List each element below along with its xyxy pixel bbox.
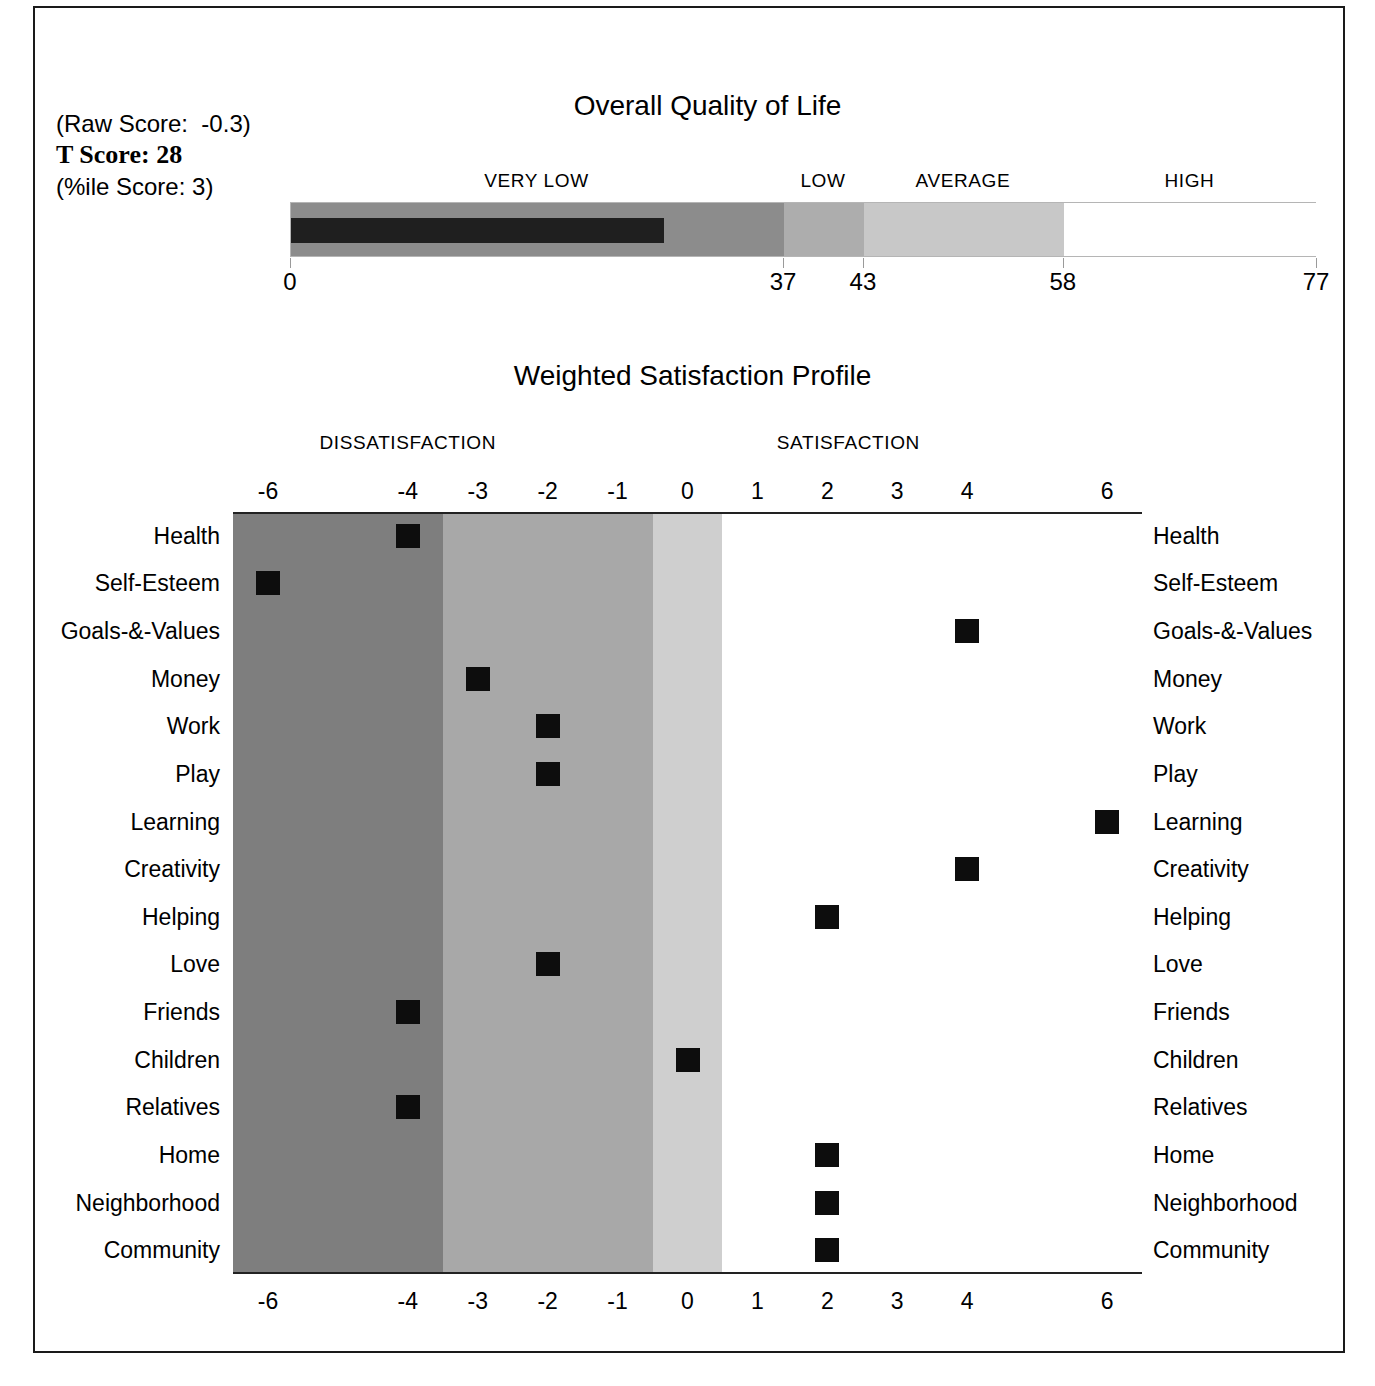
wsp-row-label-left: Love	[0, 951, 220, 978]
wsp-axis-tick-label: -4	[398, 478, 418, 505]
wsp-row-label-right: Creativity	[1153, 856, 1249, 883]
wsp-axis-tick-label: 2	[821, 478, 834, 505]
wsp-axis-tick-label: -4	[398, 1288, 418, 1315]
wsp-data-marker	[1095, 810, 1119, 834]
wsp-row-label-right: Relatives	[1153, 1094, 1248, 1121]
wsp-row-label-right: Play	[1153, 760, 1198, 787]
wsp-axis-tick-label: 6	[1101, 1288, 1114, 1315]
wsp-row-label-right: Health	[1153, 522, 1219, 549]
wsp-data-marker	[955, 619, 979, 643]
wsp-axis-tick-label: -6	[258, 1288, 278, 1315]
wsp-axis-tick-label: 0	[681, 478, 694, 505]
wsp-band-satisfied	[722, 514, 1142, 1272]
wsp-data-marker	[256, 571, 280, 595]
weighted-satisfaction-profile-chart: DISSATISFACTIONSATISFACTION -6-4-3-2-101…	[0, 0, 1375, 1386]
wsp-data-marker	[815, 1143, 839, 1167]
wsp-row-label-right: Friends	[1153, 999, 1230, 1026]
wsp-row-label-right: Learning	[1153, 808, 1243, 835]
wsp-row-label-right: Home	[1153, 1141, 1214, 1168]
wsp-header-label: DISSATISFACTION	[320, 432, 497, 454]
wsp-data-marker	[955, 857, 979, 881]
wsp-row-label-left: Creativity	[0, 856, 220, 883]
wsp-data-marker	[676, 1048, 700, 1072]
wsp-row-label-right: Goals-&-Values	[1153, 618, 1312, 645]
wsp-axis-tick-label: 3	[891, 1288, 904, 1315]
wsp-axis-tick-label: 6	[1101, 478, 1114, 505]
wsp-axis-tick-label: -2	[537, 1288, 557, 1315]
wsp-axis-tick-label: -2	[537, 478, 557, 505]
wsp-row-label-left: Health	[0, 522, 220, 549]
wsp-data-marker	[536, 762, 560, 786]
wsp-row-label-right: Self-Esteem	[1153, 570, 1278, 597]
wsp-axis-tick-label: -1	[607, 1288, 627, 1315]
wsp-row-label-left: Friends	[0, 999, 220, 1026]
wsp-axis-tick-label: 1	[751, 478, 764, 505]
wsp-row-label-left: Children	[0, 1046, 220, 1073]
wsp-data-marker	[815, 905, 839, 929]
wsp-axis-tick-label: 4	[961, 1288, 974, 1315]
wsp-row-label-left: Money	[0, 665, 220, 692]
wsp-header-label: SATISFACTION	[777, 432, 920, 454]
wsp-band-mild	[653, 514, 723, 1272]
wsp-axis-tick-label: 4	[961, 478, 974, 505]
wsp-row-label-left: Play	[0, 760, 220, 787]
wsp-axis-tick-label: 0	[681, 1288, 694, 1315]
wsp-row-label-left: Community	[0, 1237, 220, 1264]
wsp-data-marker	[815, 1238, 839, 1262]
wsp-axis-tick-label: -3	[467, 478, 487, 505]
wsp-row-label-left: Neighborhood	[0, 1189, 220, 1216]
wsp-row-label-left: Relatives	[0, 1094, 220, 1121]
wsp-data-marker	[396, 1095, 420, 1119]
wsp-axis-tick-label: 2	[821, 1288, 834, 1315]
wsp-data-marker	[466, 667, 490, 691]
wsp-data-marker	[536, 714, 560, 738]
wsp-row-label-right: Neighborhood	[1153, 1189, 1298, 1216]
wsp-band-moderate	[443, 514, 653, 1272]
wsp-row-label-right: Community	[1153, 1237, 1269, 1264]
wsp-data-marker	[396, 524, 420, 548]
wsp-axis-tick-label: 3	[891, 478, 904, 505]
wsp-axis-tick-label: -3	[467, 1288, 487, 1315]
wsp-row-label-right: Helping	[1153, 903, 1231, 930]
wsp-row-label-left: Goals-&-Values	[0, 618, 220, 645]
wsp-row-label-left: Learning	[0, 808, 220, 835]
wsp-data-marker	[536, 952, 560, 976]
wsp-row-label-right: Children	[1153, 1046, 1239, 1073]
wsp-band-severe	[233, 514, 443, 1272]
wsp-axis-tick-label: -1	[607, 478, 627, 505]
wsp-row-label-left: Work	[0, 713, 220, 740]
wsp-data-marker	[396, 1000, 420, 1024]
wsp-plot-area	[233, 512, 1142, 1274]
wsp-row-label-right: Money	[1153, 665, 1222, 692]
wsp-axis-tick-label: 1	[751, 1288, 764, 1315]
wsp-row-label-left: Home	[0, 1141, 220, 1168]
wsp-row-label-left: Self-Esteem	[0, 570, 220, 597]
wsp-row-label-right: Love	[1153, 951, 1203, 978]
wsp-axis-tick-label: -6	[258, 478, 278, 505]
wsp-row-label-left: Helping	[0, 903, 220, 930]
wsp-data-marker	[815, 1191, 839, 1215]
wsp-row-label-right: Work	[1153, 713, 1206, 740]
